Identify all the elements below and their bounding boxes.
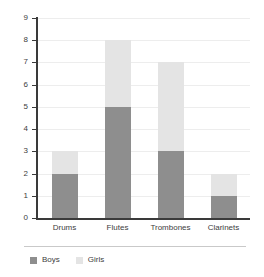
legend-label: Boys (42, 256, 60, 264)
bar-segment-boys (52, 174, 78, 218)
y-axis-tick (32, 18, 36, 19)
legend-item[interactable]: Boys (30, 256, 60, 264)
y-axis-tick-label: 7 (6, 58, 28, 66)
y-axis-tick-label: 0 (6, 214, 28, 222)
y-axis-tick-label: 6 (6, 81, 28, 89)
bar-segment-boys (158, 151, 184, 218)
bar-segment-boys (211, 196, 237, 218)
y-axis-tick (32, 40, 36, 41)
stacked-bar-chart: 0123456789 DrumsFlutesTrombonesClarinets… (0, 0, 264, 277)
x-axis-line (36, 218, 250, 220)
bar-stack (52, 151, 78, 218)
y-axis-tick-label: 4 (6, 125, 28, 133)
y-axis-tick (32, 129, 36, 130)
bar-segment-girls (211, 174, 237, 196)
legend-swatch-icon (76, 257, 83, 264)
plot-area (38, 18, 250, 218)
chart-legend: BoysGirls (30, 256, 104, 264)
y-axis-tick (32, 85, 36, 86)
y-axis-tick-label: 3 (6, 147, 28, 155)
y-axis-tick-label: 5 (6, 103, 28, 111)
legend-item[interactable]: Girls (76, 256, 104, 264)
y-axis-tick (32, 62, 36, 63)
y-axis-tick (32, 196, 36, 197)
y-axis-tick (32, 174, 36, 175)
x-axis-tick-label: Clarinets (189, 223, 259, 233)
bar-segment-girls (52, 151, 78, 173)
y-axis-tick-label: 9 (6, 14, 28, 22)
y-axis-tick-label: 2 (6, 170, 28, 178)
y-axis-tick-label: 8 (6, 36, 28, 44)
y-axis-tick-label: 1 (6, 192, 28, 200)
bar-stack (211, 174, 237, 218)
bar-segment-boys (105, 107, 131, 218)
y-axis-tick (32, 107, 36, 108)
legend-divider (24, 246, 246, 247)
bar-stack (105, 40, 131, 218)
y-axis-tick (32, 151, 36, 152)
bar-stack (158, 62, 184, 218)
y-axis-tick (32, 218, 36, 219)
legend-swatch-icon (30, 257, 37, 264)
bar-segment-girls (105, 40, 131, 107)
bar-segment-girls (158, 62, 184, 151)
legend-label: Girls (88, 256, 104, 264)
